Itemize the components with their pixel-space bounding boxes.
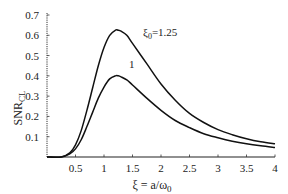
curve-label-xi0-1: 1 (129, 58, 135, 70)
y-tick-label: 0.4 (25, 70, 39, 82)
y-tick-label: 0.2 (25, 110, 39, 122)
x-tick-label: 1.5 (126, 162, 140, 174)
y-tick-label: 0.5 (25, 50, 39, 62)
x-axis-label: ξ = a/ω0 (132, 178, 172, 194)
y-tick-label: 0.6 (25, 29, 39, 41)
x-tick-label: 0.5 (69, 162, 83, 174)
y-tick-label: 0.7 (25, 9, 39, 21)
x-tick-label: 1 (101, 162, 107, 174)
curve-series-1 (47, 76, 275, 158)
x-tick-label: 2.5 (183, 162, 197, 174)
x-tick-label: 3 (215, 162, 221, 174)
curve-label-xi0-1.25: ξ0=1.25 (143, 26, 178, 41)
y-axis-label: SNRCL (11, 91, 27, 126)
y-tick-label: 0.3 (25, 90, 39, 102)
x-tick-label: 4 (272, 162, 278, 174)
x-tick-label: 2 (158, 162, 164, 174)
curves (47, 30, 275, 158)
y-tick-label: 0.1 (25, 131, 39, 143)
x-tick-label: 3.5 (240, 162, 254, 174)
snr-chart: 0.10.20.30.40.50.60.70.511.522.533.54 ξ0… (0, 0, 288, 194)
